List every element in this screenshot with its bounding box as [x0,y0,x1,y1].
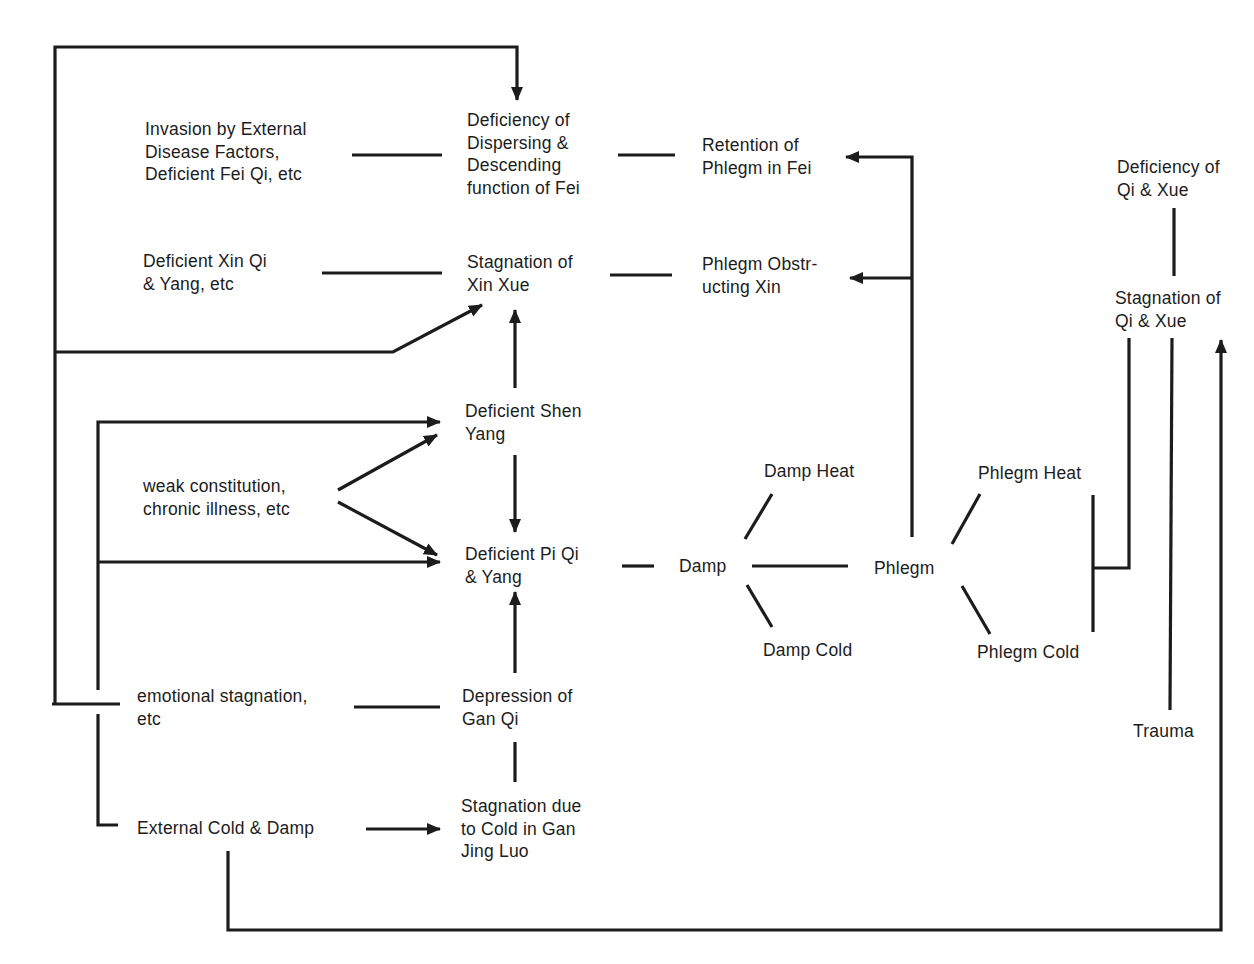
edge-damp-cold [747,585,772,627]
edge-phlegm-to-retention [846,157,912,537]
node-phlegm-obstructing-xin: Phlegm Obstr- ucting Xin [702,253,817,298]
node-deficient-pi-qi: Deficient Pi Qi & Yang [465,543,579,588]
node-damp-heat: Damp Heat [764,460,854,483]
edge-weak-to-shen [338,435,437,490]
node-weak-constitution: weak constitution, chronic illness, etc [143,475,290,520]
node-phlegm-heat: Phlegm Heat [978,462,1081,485]
node-deficient-xin-qi: Deficient Xin Qi & Yang, etc [143,250,267,295]
edge-damp-heat [745,494,772,539]
node-deficiency-fei: Deficiency of Dispersing & Descending fu… [467,109,580,199]
node-invasion-external: Invasion by External Disease Factors, De… [145,118,307,186]
node-damp-cold: Damp Cold [763,639,852,662]
edge-trunk-to-xin-xue [55,305,482,352]
edge-phlegm-heat [952,494,980,544]
node-phlegm-cold: Phlegm Cold [977,641,1079,664]
node-stagnation-xin-xue: Stagnation of Xin Xue [467,251,573,296]
edge-trauma-stagqixue [1170,338,1172,710]
node-damp: Damp [679,555,726,578]
node-stagnation-cold-gan: Stagnation due to Cold in Gan Jing Luo [461,795,582,863]
node-deficiency-qi-xue: Deficiency of Qi & Xue [1117,156,1220,201]
edge-extcold-to-qixue [228,340,1221,930]
node-phlegm: Phlegm [874,557,935,580]
edge-phlegm-cold [962,586,990,634]
flow-diagram: Invasion by External Disease Factors, De… [0,0,1254,964]
node-emotional-stagnation: emotional stagnation, etc [137,685,308,730]
node-depression-gan-qi: Depression of Gan Qi [462,685,573,730]
node-retention-phlegm-fei: Retention of Phlegm in Fei [702,134,812,179]
node-deficient-shen-yang: Deficient Shen Yang [465,400,582,445]
node-stagnation-qi-xue: Stagnation of Qi & Xue [1115,287,1221,332]
edge-emotional-to-external-cold [98,714,118,825]
node-external-cold-damp: External Cold & Damp [137,817,314,840]
node-trauma: Trauma [1133,720,1194,743]
edge-weak-to-pi [338,502,437,555]
edge-bracket-to-qixue [1093,338,1129,568]
